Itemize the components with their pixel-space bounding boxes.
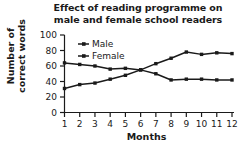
y-tick-label: 20 [46,92,58,102]
x-tick-label: 7 [153,119,159,129]
data-point-female-5 [124,67,127,70]
x-axis-ticks: 123456789101112 [62,113,238,130]
y-tick-label: 0 [51,108,57,118]
data-point-female-10 [200,77,203,80]
legend-label-male: Male [92,39,114,49]
legend-marker-male [82,42,86,46]
chart-legend: MaleFemale [78,39,125,61]
data-point-male-11 [215,51,218,54]
legend-marker-female [82,54,86,58]
x-tick-label: 6 [138,119,144,129]
series-line-female [65,63,233,80]
data-point-male-7 [154,62,157,65]
x-tick-label: 1 [62,119,68,129]
data-point-male-8 [169,57,172,60]
chart-container: Effect of reading programme on male and … [0,0,238,148]
y-tick-label: 80 [46,46,58,56]
data-point-male-10 [200,53,203,56]
x-tick-label: 4 [107,119,113,129]
x-tick-label: 2 [77,119,83,129]
x-tick-label: 10 [196,119,208,129]
x-tick-label: 9 [183,119,189,129]
data-point-male-12 [230,52,233,55]
y-tick-label: 40 [46,77,58,87]
data-point-female-2 [78,63,81,66]
data-point-male-3 [93,81,96,84]
x-tick-label: 12 [226,119,237,129]
data-point-female-1 [63,61,66,64]
data-point-female-6 [139,68,142,71]
x-tick-label: 8 [168,119,174,129]
x-tick-label: 5 [123,119,129,129]
data-point-male-9 [185,50,188,53]
x-tick-label: 3 [92,119,98,129]
data-point-female-7 [154,72,157,75]
y-axis-ticks: 020406080100 [40,30,65,118]
data-point-male-5 [124,74,127,77]
plot-area: 020406080100 123456789101112 MaleFemale [0,0,238,148]
x-tick-label: 11 [211,119,222,129]
data-point-female-12 [230,78,233,81]
data-point-male-1 [63,87,66,90]
y-tick-label: 60 [46,61,58,71]
data-point-male-2 [78,83,81,86]
y-tick-label: 100 [40,30,57,40]
data-point-female-8 [169,78,172,81]
legend-label-female: Female [92,51,125,61]
data-point-female-9 [185,77,188,80]
data-point-male-4 [108,77,111,80]
data-point-female-11 [215,78,218,81]
data-point-female-4 [108,67,111,70]
series-line-male [65,52,233,88]
data-point-female-3 [93,64,96,67]
